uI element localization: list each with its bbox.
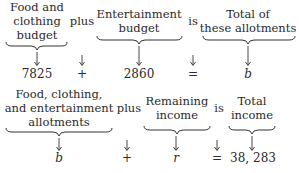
arrow-down-icon	[191, 55, 196, 66]
label-total-income-line1: Total	[238, 94, 267, 108]
operator-plus-2: +	[122, 151, 132, 165]
value-7825: 7825	[22, 67, 53, 81]
brace-food-clothing-entertainment	[6, 128, 112, 136]
brace-food-clothing	[6, 42, 67, 50]
variable-b-2: b	[55, 151, 63, 165]
label-food-clothing-line2: clothing	[13, 14, 61, 28]
arrow-down-icon	[125, 140, 130, 151]
operator-equals-2: =	[212, 151, 222, 165]
label-remaining-income-line2: income	[156, 108, 198, 122]
brace-total-income	[229, 126, 275, 134]
arrow-down-icon	[80, 55, 85, 66]
arrow-down-icon	[215, 140, 220, 151]
arrow-down-icon	[137, 46, 142, 66]
value-2860: 2860	[124, 67, 155, 81]
brace-remaining-income	[144, 126, 210, 134]
brace-total-allotments	[203, 36, 295, 44]
label-plus-2: plus	[117, 101, 141, 115]
label-is-1: is	[188, 14, 198, 28]
brace-entertainment	[97, 36, 182, 44]
label-food-clothing-line3: budget	[17, 28, 58, 42]
label-entertainment-line1: Entertainment	[96, 7, 181, 21]
label-food-clothing-ent-line2: and entertainment	[5, 101, 114, 115]
label-remaining-income-line1: Remaining	[146, 94, 209, 108]
label-is-2: is	[214, 101, 224, 115]
label-food-clothing-line1: Food and	[10, 0, 64, 14]
arrow-down-icon	[246, 46, 251, 66]
arrow-down-icon	[174, 136, 179, 151]
label-total-allotments-line1: Total of	[226, 7, 270, 21]
label-plus-1: plus	[70, 14, 94, 28]
label-total-income-line2: income	[231, 108, 273, 122]
label-food-clothing-ent-line3: allotments	[28, 115, 89, 129]
label-total-allotments-line2: these allotments	[200, 21, 297, 35]
operator-equals-1: =	[188, 67, 198, 81]
variable-b-1: b	[244, 67, 252, 81]
label-entertainment-line2: budget	[119, 21, 160, 35]
operator-plus-1: +	[77, 67, 87, 81]
label-food-clothing-ent-line1: Food, clothing,	[15, 87, 102, 101]
arrow-down-icon	[35, 52, 40, 66]
arrow-down-icon	[57, 138, 62, 151]
arrow-down-icon	[250, 136, 255, 151]
variable-r: r	[173, 151, 179, 165]
value-38283: 38, 283	[230, 151, 276, 165]
